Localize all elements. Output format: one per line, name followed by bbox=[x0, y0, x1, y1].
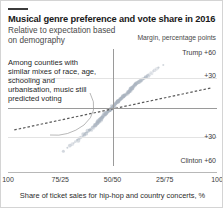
x-tick-label: 50/50 bbox=[104, 176, 122, 183]
x-tick-label: 25/75 bbox=[156, 176, 174, 183]
accent-rule bbox=[8, 8, 28, 10]
chart-subtitle: Relative to expectation based on demogra… bbox=[8, 26, 118, 45]
unit-label: Margin, percentage points bbox=[137, 34, 216, 41]
x-tick-label: 100 bbox=[2, 176, 14, 183]
chart-title: Musical genre preference and vote share … bbox=[8, 14, 220, 25]
x-axis-caption: Share of ticket sales for hip-hop and co… bbox=[1, 191, 223, 200]
chart-card: Musical genre preference and vote share … bbox=[0, 0, 223, 208]
annotation-leader-line bbox=[8, 49, 217, 166]
x-axis-line bbox=[8, 172, 217, 173]
x-tick-label: 75/25 bbox=[51, 176, 69, 183]
x-tick-label: 100 bbox=[211, 176, 223, 183]
